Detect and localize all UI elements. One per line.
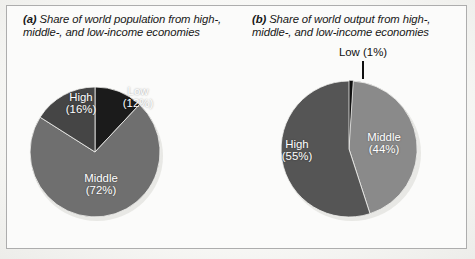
pie-b-label-high-pct: (55%) bbox=[269, 150, 325, 162]
pie-b-label-high-name: High bbox=[285, 138, 308, 150]
panel-a-caption-text: Share of world population from high-, mi… bbox=[23, 13, 221, 38]
panel-b-caption-text: Share of world output from high-, middle… bbox=[252, 13, 430, 38]
pie-b-label-low: Low (1%) bbox=[317, 46, 409, 58]
figure-frame: (a) Share of world population from high-… bbox=[6, 5, 467, 249]
pie-a-label-low: Low (12%) bbox=[112, 85, 164, 110]
pie-a-label-low-name: Low bbox=[128, 85, 149, 97]
panel-b: (b) Share of world output from high-, mi… bbox=[239, 6, 468, 250]
pie-a-label-high: High (16%) bbox=[54, 91, 108, 116]
pie-a-label-middle: Middle (72%) bbox=[64, 172, 138, 197]
panel-a: (a) Share of world population from high-… bbox=[7, 6, 239, 250]
panel-a-caption: (a) Share of world population from high-… bbox=[23, 13, 229, 38]
panel-a-tag: (a) bbox=[23, 13, 37, 25]
panel-b-tag: (b) bbox=[252, 13, 266, 25]
pie-b-label-high: High (55%) bbox=[269, 138, 325, 163]
figure-container: (a) Share of world population from high-… bbox=[0, 0, 475, 259]
pie-a-label-high-name: High bbox=[69, 91, 92, 103]
pie-a-label-low-pct: (12%) bbox=[112, 97, 164, 109]
pie-a-label-high-pct: (16%) bbox=[54, 103, 108, 115]
pie-b-low-leader-line bbox=[362, 61, 364, 79]
pie-a-label-middle-pct: (72%) bbox=[64, 184, 138, 196]
pie-b-label-middle: Middle (44%) bbox=[351, 131, 417, 156]
pie-b-label-middle-pct: (44%) bbox=[351, 143, 417, 155]
panel-b-caption: (b) Share of world output from high-, mi… bbox=[252, 13, 467, 38]
pie-a-label-middle-name: Middle bbox=[84, 172, 118, 184]
pie-b-label-middle-name: Middle bbox=[367, 131, 401, 143]
